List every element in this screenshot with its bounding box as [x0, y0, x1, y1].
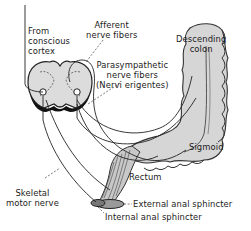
label-line: Descending [176, 34, 226, 44]
label-external-anal-sphincter: External anal sphincter [133, 199, 232, 209]
label-line: (Nervi erigentes) [96, 80, 169, 90]
label-line: Parasympathetic [96, 60, 169, 70]
label-internal-anal-sphincter: Internal anal sphincter [105, 212, 202, 222]
label-line: Skeletal [6, 188, 59, 198]
label-line: colon [176, 44, 226, 54]
label-line: Afferent [86, 20, 137, 30]
label-line: From [28, 26, 70, 36]
label-parasympathetic-nerve-fibers: Parasympathetic nerve fibers (Nervi erig… [96, 60, 169, 90]
label-line: cortex [28, 46, 70, 56]
label-line: nerve fibers [96, 70, 169, 80]
label-skeletal-motor-nerve: Skeletal motor nerve [6, 188, 59, 208]
internal-anal-sphincter-shape [91, 200, 105, 207]
spinal-cord-section [28, 61, 92, 112]
label-line: nerve fibers [86, 30, 137, 40]
label-sigmoid: Sigmoid [189, 142, 224, 152]
label-afferent-nerve-fibers: Afferent nerve fibers [86, 20, 137, 40]
label-from-conscious-cortex: From conscious cortex [28, 26, 70, 56]
label-descending-colon: Descending colon [176, 34, 226, 54]
label-line: conscious [28, 36, 70, 46]
label-rectum: Rectum [129, 172, 162, 182]
defecation-reflex-diagram: From conscious cortex Afferent nerve fib… [0, 0, 251, 231]
label-line: motor nerve [6, 198, 59, 208]
